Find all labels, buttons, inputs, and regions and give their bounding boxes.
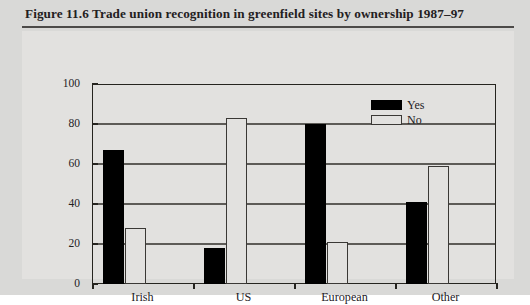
bar-us-yes bbox=[204, 248, 225, 284]
bar-us-no bbox=[226, 118, 247, 284]
bar-european-yes bbox=[305, 124, 326, 284]
y-axis-tick-label: 20 bbox=[38, 238, 80, 249]
x-axis-tick-mark bbox=[496, 283, 498, 289]
x-axis-category-label-other: Other bbox=[386, 289, 506, 305]
legend-item-yes: Yes bbox=[371, 99, 455, 112]
y-axis-tick-label: 60 bbox=[38, 158, 80, 169]
legend-swatch-yes bbox=[371, 100, 402, 110]
bar-irish-yes bbox=[103, 150, 124, 284]
chart-legend: YesNo bbox=[371, 99, 455, 129]
bar-european-no bbox=[327, 242, 348, 284]
figure-title: Figure 11.6 Trade union recognition in g… bbox=[25, 4, 515, 24]
y-axis-tick-label: 100 bbox=[38, 78, 80, 89]
legend-label-yes: Yes bbox=[407, 98, 424, 112]
bar-other-yes bbox=[406, 202, 427, 284]
bar-other-no bbox=[428, 166, 449, 284]
y-axis-tick-label: 40 bbox=[38, 198, 80, 209]
bar-irish-no bbox=[125, 228, 146, 284]
y-axis-tick-label: 80 bbox=[38, 118, 80, 129]
legend-swatch-no bbox=[371, 115, 402, 125]
legend-item-no: No bbox=[371, 114, 455, 127]
y-axis-tick-label: 0 bbox=[38, 278, 80, 289]
legend-label-no: No bbox=[407, 113, 422, 127]
chart-panel: 020406080100 IrishUSEuropeanOther YesNo bbox=[22, 31, 514, 279]
title-divider bbox=[22, 26, 514, 28]
